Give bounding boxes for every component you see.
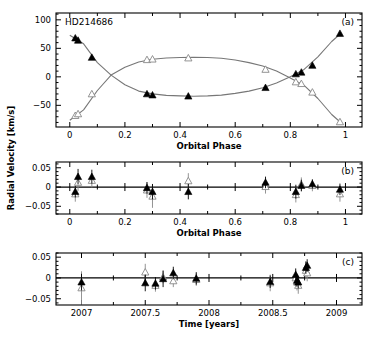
x-tick-label: 2008.5 xyxy=(258,308,288,318)
x-axis-title: Orbital Phase xyxy=(177,141,242,151)
secondary-point-marker xyxy=(88,90,95,96)
plot-frame xyxy=(56,13,362,127)
y-axis-title: Radial Velocity [km/s] xyxy=(6,106,16,211)
secondary-point-marker xyxy=(262,66,269,72)
y-tick-label: 100 xyxy=(35,15,51,25)
panel-label: (a) xyxy=(341,17,354,27)
x-tick-label: 0.6 xyxy=(228,217,242,227)
primary-point-marker xyxy=(78,279,85,285)
y-tick-label: −0.05 xyxy=(25,201,51,211)
primary-point-marker xyxy=(152,280,159,286)
panel-a-orbit: 00.20.40.60.81−50050100Orbital Phase(a)H… xyxy=(33,13,362,151)
primary-point-marker xyxy=(309,62,316,68)
x-tick-label: 0 xyxy=(67,130,72,140)
primary-point-marker xyxy=(74,173,81,179)
primary-point-marker xyxy=(304,262,311,268)
x-tick-label: 1 xyxy=(343,217,348,227)
primary-point-marker xyxy=(262,179,269,185)
y-tick-label: 0.05 xyxy=(32,163,51,173)
radial-velocity-figure: Radial Velocity [km/s] 00.20.40.60.81−50… xyxy=(0,0,372,341)
y-tick-label: −0.05 xyxy=(25,294,51,304)
x-tick-label: 0.2 xyxy=(118,217,132,227)
primary-point-marker xyxy=(336,30,343,36)
secondary-point-marker xyxy=(142,269,149,275)
panel-label: (b) xyxy=(341,166,354,176)
chart-canvas: Radial Velocity [km/s] 00.20.40.60.81−50… xyxy=(0,0,372,341)
primary-point-marker xyxy=(309,180,316,186)
x-tick-label: 2008 xyxy=(198,308,220,318)
primary-point-marker xyxy=(88,54,95,60)
y-tick-label: 0 xyxy=(46,72,51,82)
x-tick-label: 2007 xyxy=(71,308,93,318)
secondary-point-marker xyxy=(309,89,316,95)
x-tick-label: 0.4 xyxy=(173,217,187,227)
primary-point-marker xyxy=(142,279,149,285)
primary-point-marker xyxy=(170,269,177,275)
x-tick-label: 0.2 xyxy=(118,130,132,140)
primary-point-marker xyxy=(185,188,192,194)
y-tick-label: −50 xyxy=(33,100,51,110)
primary-point-marker xyxy=(88,173,95,179)
x-tick-label: 2009 xyxy=(326,308,348,318)
y-tick-label: 0.05 xyxy=(32,252,51,262)
x-tick-label: 0.4 xyxy=(173,130,187,140)
x-axis-title: Time [years] xyxy=(179,319,239,329)
x-tick-label: 0.8 xyxy=(284,217,298,227)
y-tick-label: 50 xyxy=(40,43,51,53)
star-name-label: HD214686 xyxy=(65,17,113,27)
panel-b-phase-residuals: 00.20.40.60.81−0.0500.05Orbital Phase(b) xyxy=(25,162,362,238)
y-tick-label: 0 xyxy=(46,273,51,283)
x-tick-label: 0 xyxy=(67,217,72,227)
panel-label: (c) xyxy=(342,257,354,267)
orbit-fit-curve xyxy=(70,57,342,123)
x-tick-label: 0.6 xyxy=(228,130,242,140)
x-tick-label: 1 xyxy=(343,130,348,140)
x-tick-label: 0.8 xyxy=(284,130,298,140)
y-tick-label: 0 xyxy=(46,182,51,192)
x-axis-title: Orbital Phase xyxy=(177,228,242,238)
primary-point-marker xyxy=(292,188,299,194)
secondary-point-marker xyxy=(185,177,192,183)
x-tick-label: 2007.5 xyxy=(130,308,160,318)
panel-c-time-residuals: 20072007.520082008.52009−0.0500.05Time [… xyxy=(25,252,362,329)
